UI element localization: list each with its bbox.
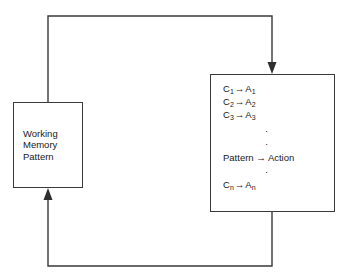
arrowhead-up-icon (44, 188, 53, 200)
production-rule-1: C1→A1 (223, 83, 256, 96)
working-memory-line-2: Memory (23, 139, 82, 151)
ellipsis-dot-1: · (223, 126, 334, 136)
rule-2-arrow-icon: → (234, 96, 246, 107)
rule-n-condition-subscript: n (230, 184, 234, 191)
rule-n-action: A (245, 179, 251, 190)
arrowhead-down-icon (268, 62, 277, 74)
rule-n-condition: C (223, 179, 230, 190)
ellipsis-dot-2: · (223, 139, 334, 149)
production-rule-3: C3→A3 (223, 109, 256, 122)
rule-n-arrow-icon: → (234, 179, 246, 190)
rule-1-action: A (245, 83, 251, 94)
rule-2-condition: C (223, 96, 230, 107)
generic-production-rule: Pattern → Action (223, 152, 294, 164)
diagram-canvas: Working Memory Pattern C1→A1 C2→A2 C3→A3… (0, 0, 346, 277)
working-memory-box: Working Memory Pattern (13, 102, 83, 188)
rule-1-arrow-icon: → (234, 83, 246, 94)
rule-n-action-subscript: n (252, 184, 256, 191)
rule-1-condition: C (223, 83, 230, 94)
rule-3-condition-subscript: 3 (230, 114, 234, 121)
rule-3-action-subscript: 3 (252, 114, 256, 121)
ellipsis-dot-3: · (223, 167, 334, 177)
production-rule-2: C2→A2 (223, 96, 256, 109)
rule-2-condition-subscript: 2 (230, 101, 234, 108)
rule-1-action-subscript: 1 (252, 88, 256, 95)
working-memory-line-1: Working (23, 128, 82, 140)
rule-3-action: A (245, 109, 251, 120)
production-rules-box: C1→A1 C2→A2 C3→A3 · · Pattern → Action ·… (210, 74, 335, 212)
production-rule-n: Cn→An (223, 179, 256, 192)
rule-2-action: A (245, 96, 251, 107)
rule-1-condition-subscript: 1 (230, 88, 234, 95)
rule-3-condition: C (223, 109, 230, 120)
rule-3-arrow-icon: → (234, 109, 246, 120)
working-memory-line-3: Pattern (23, 151, 82, 163)
rule-2-action-subscript: 2 (252, 101, 256, 108)
